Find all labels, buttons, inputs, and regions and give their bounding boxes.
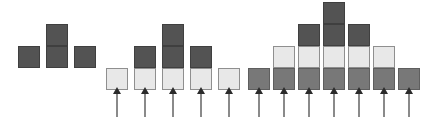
group-3-arrowhead-5-icon — [355, 87, 363, 94]
group-2-col-3-cell-3-dark — [162, 24, 184, 46]
group-3-col-6-cell-2-light — [373, 46, 395, 68]
group-2-arrow-2-up-icon — [144, 93, 146, 117]
group-2-arrowhead-4-icon — [197, 87, 205, 94]
group-3-col-5-cell-2-light — [348, 46, 370, 68]
group-2-col-4-cell-2-dark — [190, 46, 212, 68]
group-2-col-2-cell-2-dark — [134, 46, 156, 68]
group-3-col-4-cell-4-dark — [323, 2, 345, 24]
group-2-arrow-5-up-icon — [228, 93, 230, 117]
diagram-canvas — [0, 0, 424, 120]
group-2-col-3-cell-2-dark — [162, 46, 184, 68]
group-3-arrowhead-4-icon — [330, 87, 338, 94]
group-3-col-3-cell-2-light — [298, 46, 320, 68]
group-3-arrowhead-6-icon — [380, 87, 388, 94]
group-3-arrow-6-up-icon — [383, 93, 385, 117]
group-2-arrowhead-2-icon — [141, 87, 149, 94]
group-2-arrowhead-1-icon — [113, 87, 121, 94]
group-2-arrow-1-up-icon — [116, 93, 118, 117]
group-3-arrow-5-up-icon — [358, 93, 360, 117]
group-3-arrow-3-up-icon — [308, 93, 310, 117]
group-1-col-1-cell-1-dark — [18, 46, 40, 68]
group-3-arrow-4-up-icon — [333, 93, 335, 117]
group-3-col-4-cell-3-dark — [323, 24, 345, 46]
group-3-arrow-2-up-icon — [283, 93, 285, 117]
group-3-arrowhead-7-icon — [405, 87, 413, 94]
group-3-arrowhead-1-icon — [255, 87, 263, 94]
group-1-col-2-cell-1-dark — [46, 46, 68, 68]
group-3-arrow-7-up-icon — [408, 93, 410, 117]
group-3-arrowhead-3-icon — [305, 87, 313, 94]
group-2-arrow-4-up-icon — [200, 93, 202, 117]
group-3-col-2-cell-2-light — [273, 46, 295, 68]
group-1-col-2-cell-2-dark — [46, 24, 68, 46]
group-2-arrowhead-3-icon — [169, 87, 177, 94]
group-1-col-3-cell-1-dark — [74, 46, 96, 68]
group-2-arrowhead-5-icon — [225, 87, 233, 94]
group-3-arrowhead-2-icon — [280, 87, 288, 94]
group-3-arrow-1-up-icon — [258, 93, 260, 117]
group-3-col-3-cell-3-dark — [298, 24, 320, 46]
group-2-arrow-3-up-icon — [172, 93, 174, 117]
group-3-col-4-cell-2-light — [323, 46, 345, 68]
group-3-col-5-cell-3-dark — [348, 24, 370, 46]
